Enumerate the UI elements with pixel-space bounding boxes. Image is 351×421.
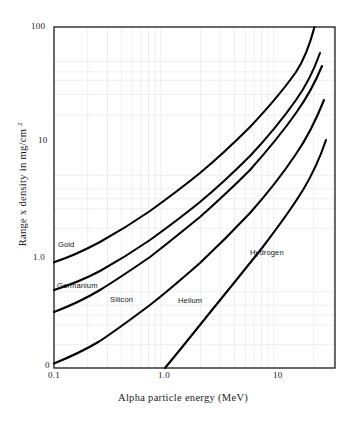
series-label-gold: Gold (58, 240, 74, 249)
y-axis-title: Range x density in mg/cm 2 (12, 0, 32, 368)
ytick-10: 10 (38, 135, 47, 145)
grid-vertical (88, 27, 334, 368)
curve-helium (54, 100, 324, 364)
series-label-helium: Helium (178, 296, 202, 305)
xtick-10: 10 (273, 370, 282, 380)
plot-canvas (0, 0, 351, 421)
series-label-germanium: Germanium (57, 281, 98, 290)
ytick-100: 100 (31, 21, 45, 31)
alpha-particle-range-chart: 100 10 1.0 0 0.1 1.0 10 Range x density … (0, 0, 351, 421)
y-axis-title-base: Range x density in mg/cm (17, 126, 28, 246)
data-curves (54, 27, 326, 368)
xtick-1-0: 1.0 (158, 370, 170, 380)
xtick-0-1: 0.1 (48, 370, 60, 380)
curve-gold (54, 27, 315, 262)
series-label-silicon: Silicon (110, 295, 133, 304)
x-axis-title: Alpha particle energy (MeV) (118, 392, 248, 403)
y-axis-title-exponent: 2 (16, 122, 24, 126)
series-label-hydrogen: Hydrogen (250, 248, 284, 257)
ytick-0: 0 (45, 360, 50, 370)
ytick-1: 1.0 (33, 252, 45, 262)
